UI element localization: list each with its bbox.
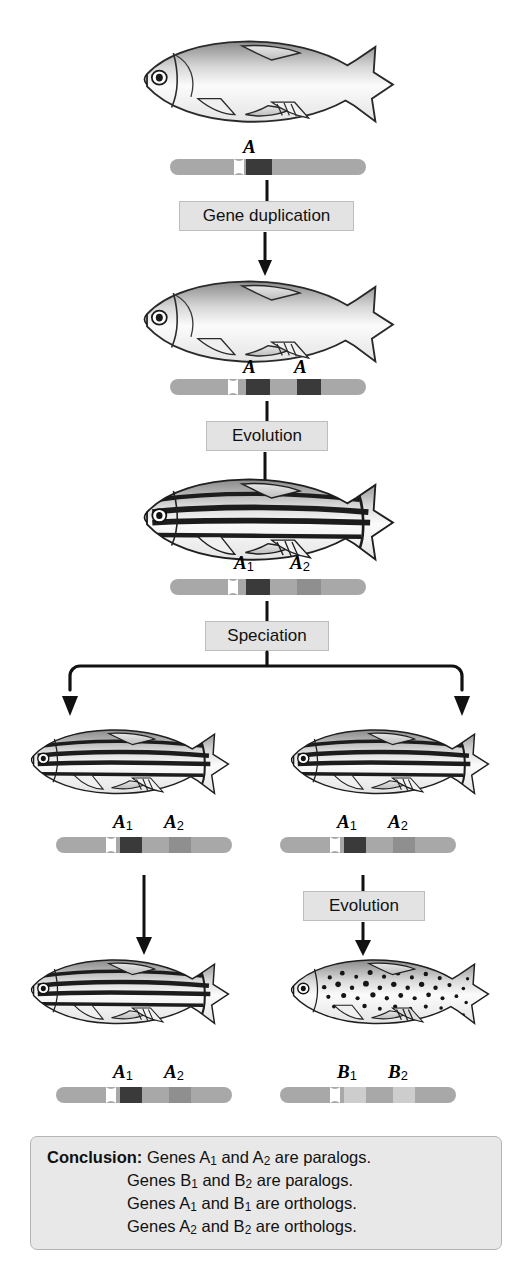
speciation-branch-arrows	[30, 652, 502, 722]
arrow-to-gene-duplication	[264, 180, 270, 202]
conclusion-line-4: Genes A2 and B2 are orthologs.	[47, 1216, 487, 1239]
diagram-canvas: A Gene duplication A A	[0, 0, 532, 1261]
gene-label-sp2-a1: A1	[337, 812, 357, 831]
gene-label-ancestral-a: A	[243, 137, 256, 156]
conclusion-box: Conclusion: Genes A1 and A2 are paralogs…	[30, 1136, 502, 1250]
gene-label-sp2-a2: A2	[388, 812, 408, 831]
chromosome-evolved	[170, 578, 366, 595]
conclusion-line-3-text: Genes A1 and B1 are orthologs.	[127, 1194, 357, 1212]
chromosome-species-2-after	[280, 1086, 456, 1103]
arrow-to-evolution-2	[360, 875, 366, 891]
fish-striped-ancestor	[140, 470, 400, 570]
conclusion-line-1: Conclusion: Genes A1 and A2 are paralogs…	[47, 1147, 487, 1170]
arrow-species-1-down	[136, 875, 152, 955]
gene-label-evo-a2: A2	[290, 553, 310, 572]
gene-label-evo-a1: A1	[234, 553, 254, 572]
process-box-evolution-1[interactable]: Evolution	[206, 421, 328, 451]
chromosome-species-2-before	[280, 836, 456, 853]
fish-after-duplication	[140, 272, 400, 372]
process-box-speciation[interactable]: Speciation	[205, 621, 329, 651]
chromosome-duplicated	[170, 378, 366, 395]
conclusion-line-3: Genes A1 and B1 are orthologs.	[47, 1193, 487, 1216]
gene-label-dup-a-right: A	[294, 357, 307, 376]
conclusion-line-1-text: Genes A1 and A2 are paralogs.	[147, 1148, 371, 1166]
gene-label-sp1-a2: A2	[164, 812, 184, 831]
fish-ancestral	[140, 32, 400, 132]
arrow-to-evolution-1	[264, 401, 270, 421]
gene-label-dup-a-left: A	[243, 357, 256, 376]
chromosome-species-1-after	[56, 1086, 232, 1103]
gene-label-sp2f-b1: B1	[337, 1062, 357, 1081]
fish-species-2-descendant	[288, 952, 494, 1032]
gene-label-sp1f-a1: A1	[113, 1062, 133, 1081]
gene-label-sp1f-a2: A2	[164, 1062, 184, 1081]
process-box-gene-duplication[interactable]: Gene duplication	[179, 201, 354, 231]
chromosome-ancestral	[170, 158, 366, 175]
conclusion-line-2: Genes B1 and B2 are paralogs.	[47, 1170, 487, 1193]
fish-species-1	[28, 722, 234, 802]
arrow-gene-duplication-down	[257, 232, 273, 276]
fish-species-2	[288, 722, 494, 802]
gene-label-sp2f-b2: B2	[388, 1062, 408, 1081]
chromosome-species-1-before	[56, 836, 232, 853]
gene-label-sp1-a1: A1	[113, 812, 133, 831]
conclusion-label: Conclusion:	[47, 1148, 142, 1166]
fish-species-1-descendant	[28, 952, 234, 1032]
conclusion-line-4-text: Genes A2 and B2 are orthologs.	[127, 1217, 357, 1235]
arrow-evolution-2-down	[355, 922, 371, 956]
conclusion-line-2-text: Genes B1 and B2 are paralogs.	[127, 1171, 353, 1189]
arrow-to-speciation	[264, 601, 270, 621]
process-box-evolution-2[interactable]: Evolution	[303, 891, 425, 921]
